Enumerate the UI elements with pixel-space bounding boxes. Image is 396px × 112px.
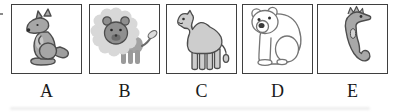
kangaroo-icon bbox=[12, 5, 81, 73]
seahorse-icon bbox=[318, 5, 387, 73]
animal-box-d bbox=[242, 4, 313, 74]
animal-box-b bbox=[89, 4, 160, 74]
option-b: B bbox=[89, 4, 160, 100]
animal-options-figure: A bbox=[0, 0, 396, 112]
option-label-b: B bbox=[89, 82, 160, 100]
option-label-c: C bbox=[166, 82, 237, 100]
camel-icon bbox=[167, 5, 236, 73]
option-e: E bbox=[317, 4, 388, 100]
lion-icon bbox=[90, 5, 159, 73]
scan-edge-mark bbox=[0, 13, 3, 15]
animal-box-a bbox=[11, 4, 82, 74]
option-label-a: A bbox=[11, 82, 82, 100]
polar-bear-icon bbox=[243, 5, 312, 73]
option-c: C bbox=[166, 4, 237, 100]
option-a: A bbox=[11, 4, 82, 100]
animal-box-c bbox=[166, 4, 237, 74]
animal-box-e bbox=[317, 4, 388, 74]
option-label-d: D bbox=[242, 82, 313, 100]
option-d: D bbox=[242, 4, 313, 100]
scan-artifact bbox=[10, 107, 370, 110]
option-label-e: E bbox=[317, 82, 388, 100]
